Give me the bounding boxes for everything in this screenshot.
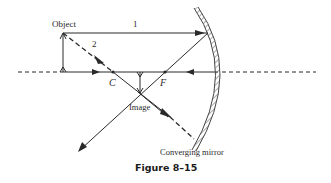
ray-2 (63, 33, 194, 139)
center-label: C (109, 77, 116, 88)
ray2-image-arrow-icon (160, 108, 172, 118)
image-label: Image (129, 102, 150, 112)
object-label: Object (52, 19, 76, 29)
object-arrow (60, 33, 66, 72)
focus-point (163, 70, 166, 73)
ray1-reflected-arrow-icon (78, 142, 87, 152)
ray-2-label: 2 (92, 39, 97, 49)
image-arrow (137, 72, 143, 93)
ray-1 (63, 30, 208, 152)
converging-mirror (192, 7, 220, 151)
axis-arrow-left-icon (186, 69, 194, 75)
axis-arrow-right-icon (92, 69, 100, 75)
center-point (111, 70, 114, 73)
ray1-arrow-icon (195, 30, 205, 36)
focus-label: F (159, 77, 167, 88)
ray-diagram: Object 1 2 C F Image Converging mirror F… (0, 0, 331, 183)
mirror-label: Converging mirror (160, 147, 224, 157)
figure-caption: Figure 8–15 (135, 162, 197, 173)
ray-1-label: 1 (133, 19, 138, 29)
ray2-arrow-icon (94, 55, 104, 64)
